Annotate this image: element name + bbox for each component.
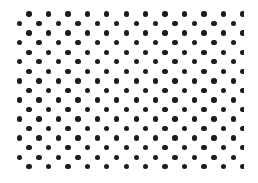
dot — [104, 50, 109, 55]
dot — [221, 69, 226, 74]
dot — [211, 97, 216, 102]
dot — [17, 116, 22, 121]
dot — [211, 135, 216, 140]
dot — [17, 40, 22, 45]
dot — [211, 59, 216, 64]
dot — [172, 59, 177, 64]
dot — [85, 69, 90, 74]
dot — [36, 97, 41, 102]
dot — [104, 145, 109, 150]
dot — [172, 116, 177, 121]
dot — [240, 88, 244, 93]
dot — [153, 40, 158, 45]
dot — [182, 145, 187, 150]
dot — [26, 30, 31, 35]
dot — [201, 145, 206, 150]
dot — [192, 40, 197, 45]
dot — [114, 97, 119, 102]
dot — [162, 69, 167, 74]
dot — [85, 126, 90, 131]
dot — [36, 78, 41, 83]
dot — [192, 116, 197, 121]
dot — [182, 69, 187, 74]
dot — [95, 40, 100, 45]
dot — [65, 30, 70, 35]
dot — [134, 21, 139, 26]
dot — [26, 126, 31, 131]
dot — [75, 40, 80, 45]
dot — [162, 107, 167, 112]
dot — [65, 88, 70, 93]
dot — [221, 50, 226, 55]
dot — [114, 40, 119, 45]
dot — [85, 88, 90, 93]
dot — [172, 97, 177, 102]
dot — [192, 78, 197, 83]
dot — [231, 59, 236, 64]
dot — [75, 78, 80, 83]
dot — [162, 30, 167, 35]
dot — [17, 97, 22, 102]
dot — [124, 164, 129, 169]
dot — [221, 145, 226, 150]
dot — [182, 30, 187, 35]
dot — [104, 69, 109, 74]
dot — [211, 40, 216, 45]
dot — [231, 155, 236, 160]
dot — [85, 30, 90, 35]
dot — [56, 97, 61, 102]
dot — [240, 69, 244, 74]
dot — [240, 164, 244, 169]
dot — [192, 59, 197, 64]
dot — [153, 116, 158, 121]
dot — [75, 21, 80, 26]
dot — [95, 59, 100, 64]
dot — [85, 107, 90, 112]
dot — [162, 88, 167, 93]
dot — [162, 50, 167, 55]
dot — [65, 50, 70, 55]
dot — [153, 59, 158, 64]
dot — [124, 69, 129, 74]
dot — [211, 155, 216, 160]
dot — [211, 78, 216, 83]
dot — [231, 135, 236, 140]
dot — [221, 164, 226, 169]
dot — [182, 11, 187, 16]
dot — [231, 21, 236, 26]
dot — [162, 164, 167, 169]
dot — [65, 145, 70, 150]
dot — [172, 155, 177, 160]
dot — [26, 107, 31, 112]
dot — [134, 40, 139, 45]
dot — [95, 155, 100, 160]
dot — [104, 126, 109, 131]
dot — [201, 126, 206, 131]
dot — [75, 135, 80, 140]
dot — [75, 97, 80, 102]
dot — [26, 145, 31, 150]
dot — [201, 107, 206, 112]
dot — [95, 21, 100, 26]
dot — [192, 135, 197, 140]
dot — [221, 126, 226, 131]
dot — [143, 107, 148, 112]
dot — [240, 30, 244, 35]
dot — [104, 107, 109, 112]
dot — [172, 135, 177, 140]
dot — [46, 164, 51, 169]
dot — [85, 50, 90, 55]
dot — [134, 78, 139, 83]
dot — [172, 40, 177, 45]
dot — [104, 30, 109, 35]
dot — [104, 88, 109, 93]
dot — [65, 107, 70, 112]
dot — [124, 145, 129, 150]
dot — [201, 11, 206, 16]
dot — [153, 135, 158, 140]
dot — [56, 155, 61, 160]
dot — [221, 88, 226, 93]
dot — [36, 40, 41, 45]
dot — [17, 21, 22, 26]
dot — [124, 107, 129, 112]
